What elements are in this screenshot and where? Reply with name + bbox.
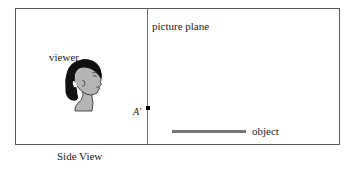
side-view-perspective-diagram: picture plane viewer A′ ob	[0, 0, 355, 175]
picture-plane-label: picture plane	[152, 20, 209, 32]
object-segment	[172, 130, 246, 133]
picture-plane-line	[147, 9, 148, 144]
figure-caption: Side View	[57, 150, 102, 162]
point-a-prime-label: A′	[133, 106, 141, 117]
point-a-prime-marker	[146, 106, 150, 110]
object-label: object	[252, 125, 279, 137]
viewer-head-icon	[58, 55, 110, 113]
